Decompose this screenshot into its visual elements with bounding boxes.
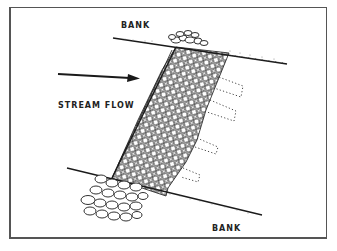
bank-label-top: BANK [121,21,150,30]
gabion-diagram [0,0,337,251]
stream-flow-arrow [58,74,140,82]
bank-label-bottom: BANK [212,224,241,233]
lower-bank-soil-speckle [156,186,249,214]
gabion-wire-mesh-structure [100,40,240,200]
top-rock-pile [169,31,209,46]
stream-flow-label: STREAM FLOW [58,101,135,110]
